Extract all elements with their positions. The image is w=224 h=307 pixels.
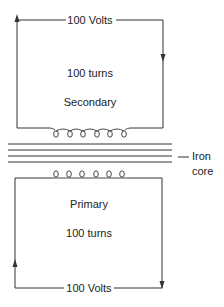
iron-core-label-line2: core: [192, 165, 213, 177]
secondary-voltage-label: 100 Volts: [67, 14, 113, 26]
arrow-down-icon: [161, 54, 166, 62]
primary-voltage-label: 100 Volts: [66, 282, 112, 294]
transformer-diagram: Iron core 100 Volts 100 turns Secondary …: [0, 0, 224, 307]
secondary-coil: [50, 128, 130, 137]
primary-turns-label: 100 turns: [66, 227, 112, 239]
secondary-turns-label: 100 turns: [67, 67, 113, 79]
arrow-up-icon: [13, 259, 18, 267]
primary-coil: [52, 171, 128, 178]
iron-core-label-line1: Iron: [192, 150, 211, 162]
secondary-title: Secondary: [64, 96, 117, 108]
primary-title: Primary: [70, 198, 108, 210]
arrow-up-icon: [15, 14, 20, 22]
iron-core: [8, 144, 189, 162]
